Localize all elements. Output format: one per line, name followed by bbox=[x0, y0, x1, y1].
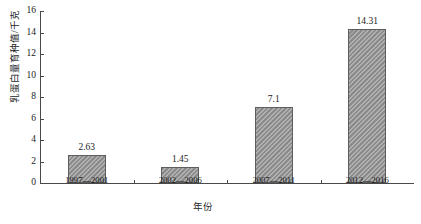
y-tick-label: 6 bbox=[31, 113, 36, 124]
bar-value-label: 7.1 bbox=[268, 94, 280, 105]
y-tick-mark bbox=[40, 76, 44, 77]
bar-group: 14.31 bbox=[348, 16, 386, 183]
y-axis-title: 乳蛋白量育种值/千克 bbox=[11, 0, 21, 117]
y-tick-label: 12 bbox=[27, 48, 37, 59]
y-axis-line bbox=[40, 12, 41, 184]
y-tick-mark bbox=[40, 119, 44, 120]
bar bbox=[255, 107, 293, 183]
y-tick-label: 4 bbox=[31, 134, 36, 145]
y-tick-label: 2 bbox=[31, 156, 36, 167]
bar-value-label: 2.63 bbox=[78, 142, 95, 153]
y-tick-label: 8 bbox=[31, 91, 36, 102]
x-category-label: 1997—2001 bbox=[40, 175, 134, 185]
y-tick-label: 16 bbox=[27, 5, 37, 16]
y-tick-label: 14 bbox=[27, 27, 37, 38]
plot-area: 1614121086420 2.631.457.114.31 bbox=[40, 12, 414, 184]
bar bbox=[348, 29, 386, 183]
y-tick-label: 10 bbox=[27, 70, 37, 81]
y-tick-mark bbox=[40, 140, 44, 141]
y-tick-mark bbox=[40, 54, 44, 55]
bar-chart: 乳蛋白量育种值/千克 1614121086420 2.631.457.114.3… bbox=[0, 0, 421, 224]
bar-value-label: 1.45 bbox=[172, 154, 189, 165]
y-tick-mark bbox=[40, 33, 44, 34]
x-category-label: 2002—2006 bbox=[134, 175, 228, 185]
y-tick-mark bbox=[40, 11, 44, 12]
y-tick-mark bbox=[40, 97, 44, 98]
y-tick-label: 0 bbox=[31, 177, 36, 188]
x-category-label: 2012—2016 bbox=[321, 175, 415, 185]
y-tick-mark bbox=[40, 162, 44, 163]
bar-value-label: 14.31 bbox=[357, 16, 378, 27]
bar-group: 7.1 bbox=[255, 94, 293, 183]
x-category-label: 2007—2011 bbox=[227, 175, 321, 185]
x-axis-title: 年份 bbox=[193, 202, 213, 213]
